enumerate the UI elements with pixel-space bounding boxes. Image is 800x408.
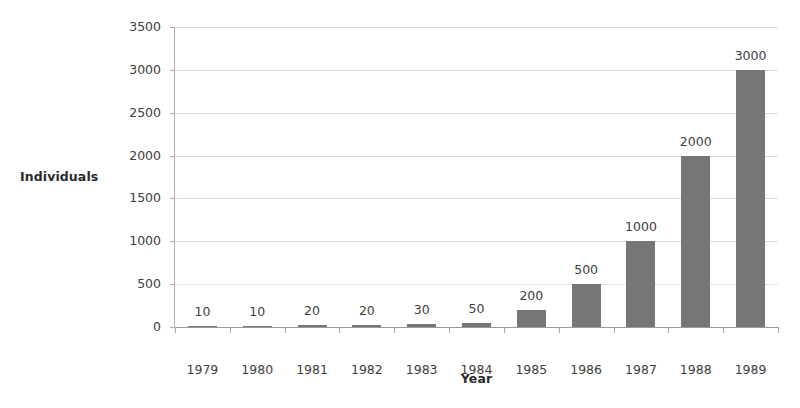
bar-data-label: 10 [230, 306, 285, 319]
bar [517, 310, 546, 327]
bar [736, 70, 765, 327]
x-tick-label: 1979 [175, 364, 230, 377]
bar [626, 241, 655, 327]
x-tick-label: 1982 [339, 364, 394, 377]
gridline [175, 27, 778, 28]
bar-chart: Individuals Year 05001000150020002500300… [0, 0, 800, 408]
y-tick-mark [170, 113, 175, 114]
y-tick-mark [170, 284, 175, 285]
y-tick-mark [170, 156, 175, 157]
x-tick-label: 1988 [668, 364, 723, 377]
bar-data-label: 500 [559, 264, 614, 277]
x-tick-label: 1984 [449, 364, 504, 377]
x-tick-mark [723, 327, 724, 333]
gridline [175, 327, 778, 328]
x-tick-mark [230, 327, 231, 333]
y-tick-mark [170, 241, 175, 242]
x-tick-mark [778, 327, 779, 333]
y-tick-label: 1500 [107, 192, 161, 205]
y-tick-mark [170, 70, 175, 71]
y-tick-mark [170, 198, 175, 199]
x-tick-mark [175, 327, 176, 333]
y-tick-label: 3000 [107, 64, 161, 77]
bar [407, 324, 436, 327]
y-tick-label: 3500 [107, 21, 161, 34]
bar-data-label: 200 [504, 290, 559, 303]
y-tick-label: 2500 [107, 107, 161, 120]
x-tick-mark [394, 327, 395, 333]
bar [243, 326, 272, 327]
gridline [175, 70, 778, 71]
bar-data-label: 3000 [723, 50, 778, 63]
plot-area: 0500100015002000250030003500 19791980198… [175, 27, 778, 327]
bar-data-label: 1000 [614, 221, 669, 234]
bar [298, 325, 327, 327]
x-tick-mark [285, 327, 286, 333]
y-axis-title: Individuals [20, 169, 116, 184]
bar-data-label: 50 [449, 303, 504, 316]
y-tick-label: 1000 [107, 235, 161, 248]
x-tick-label: 1989 [723, 364, 778, 377]
x-tick-label: 1983 [394, 364, 449, 377]
bar [572, 284, 601, 327]
x-tick-label: 1981 [285, 364, 340, 377]
bar-data-label: 20 [285, 305, 340, 318]
x-tick-label: 1985 [504, 364, 559, 377]
bar-data-label: 20 [339, 305, 394, 318]
gridline [175, 113, 778, 114]
y-tick-label: 0 [107, 321, 161, 334]
bar [462, 323, 491, 327]
x-tick-label: 1980 [230, 364, 285, 377]
x-tick-mark [449, 327, 450, 333]
x-tick-label: 1987 [614, 364, 669, 377]
x-tick-label: 1986 [559, 364, 614, 377]
x-tick-mark [504, 327, 505, 333]
x-tick-mark [559, 327, 560, 333]
bar [188, 326, 217, 327]
bar-data-label: 2000 [668, 136, 723, 149]
y-tick-mark [170, 27, 175, 28]
x-tick-mark [668, 327, 669, 333]
x-tick-mark [339, 327, 340, 333]
y-tick-label: 2000 [107, 150, 161, 163]
x-tick-mark [614, 327, 615, 333]
bar [352, 325, 381, 327]
bar-data-label: 10 [175, 306, 230, 319]
bar-data-label: 30 [394, 304, 449, 317]
bar [681, 156, 710, 327]
y-tick-label: 500 [107, 278, 161, 291]
y-axis-line [174, 27, 175, 328]
